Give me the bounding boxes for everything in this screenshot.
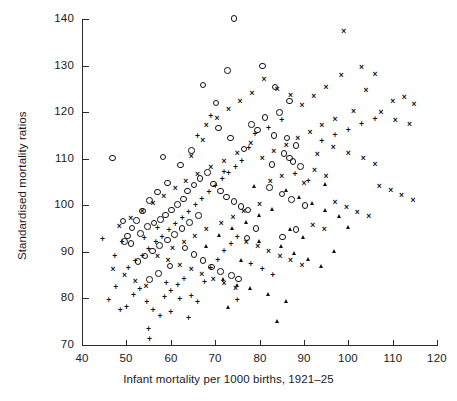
data-point-triangle — [323, 182, 327, 186]
y-tick-label-80: 80 — [30, 291, 74, 303]
y-axis-line — [82, 19, 83, 346]
y-tick-120 — [83, 112, 89, 113]
y-tick-label-110: 110 — [30, 152, 74, 164]
x-tick-100 — [348, 340, 349, 346]
data-point-triangle — [239, 258, 243, 262]
x-tick-label-110: 110 — [373, 352, 413, 364]
y-tick-100 — [83, 205, 89, 206]
data-point-triangle — [235, 283, 239, 287]
x-tick-80 — [260, 340, 261, 346]
x-tick-label-80: 80 — [240, 352, 280, 364]
data-point-triangle — [323, 208, 327, 212]
data-point-triangle — [226, 305, 230, 309]
data-point-triangle — [270, 207, 274, 211]
scatter-plot-figure: ××××××××××××××××××××××××××××××××××××××××… — [0, 0, 457, 401]
y-axis-title: Standardised mortality ratios — [16, 111, 28, 260]
y-tick-110 — [83, 159, 89, 160]
data-point-triangle — [337, 214, 341, 218]
data-point-triangle — [284, 188, 288, 192]
x-tick-label-100: 100 — [328, 352, 368, 364]
data-point-triangle — [288, 227, 292, 231]
data-point-triangle — [346, 225, 350, 229]
data-point-triangle — [248, 286, 252, 290]
x-tick-label-40: 40 — [62, 352, 102, 364]
y-tick-label-100: 100 — [30, 198, 74, 210]
data-point-triangle — [204, 244, 208, 248]
data-point-triangle — [275, 319, 279, 323]
x-tick-label-50: 50 — [106, 352, 146, 364]
data-point-triangle — [266, 292, 270, 296]
x-tick-120 — [437, 340, 438, 346]
x-tick-label-60: 60 — [151, 352, 191, 364]
data-point-triangle — [257, 213, 261, 217]
y-tick-label-120: 120 — [30, 105, 74, 117]
data-point-triangle — [217, 233, 221, 237]
x-tick-110 — [393, 340, 394, 346]
data-point-triangle — [306, 257, 310, 261]
x-tick-70 — [215, 340, 216, 346]
y-tick-90 — [83, 252, 89, 253]
y-tick-80 — [83, 298, 89, 299]
x-tick-label-70: 70 — [195, 352, 235, 364]
data-point-triangle — [244, 220, 248, 224]
data-point-triangle — [221, 277, 225, 281]
x-axis-title: Infant mortality per 1000 births, 1921–2… — [0, 373, 457, 385]
x-tick-label-90: 90 — [284, 352, 324, 364]
y-tick-label-130: 130 — [30, 59, 74, 71]
data-point-triangle — [257, 239, 261, 243]
y-tick-130 — [83, 66, 89, 67]
data-point-triangle — [319, 264, 323, 268]
data-point-triangle — [252, 184, 256, 188]
y-tick-label-90: 90 — [30, 245, 74, 257]
y-tick-140 — [83, 19, 89, 20]
data-point-triangle — [230, 226, 234, 230]
x-tick-label-120: 120 — [417, 352, 457, 364]
y-tick-label-70: 70 — [30, 338, 74, 350]
data-point-triangle — [292, 251, 296, 255]
y-tick-70 — [83, 345, 89, 346]
data-point-triangle — [279, 244, 283, 248]
data-point-triangle — [301, 235, 305, 239]
x-tick-90 — [304, 340, 305, 346]
data-point-triangle — [332, 249, 336, 253]
data-point-triangle — [310, 201, 314, 205]
x-tick-50 — [126, 340, 127, 346]
data-point-triangle — [297, 195, 301, 199]
x-tick-60 — [171, 340, 172, 346]
y-tick-label-140: 140 — [30, 12, 74, 24]
data-point-triangle — [284, 299, 288, 303]
